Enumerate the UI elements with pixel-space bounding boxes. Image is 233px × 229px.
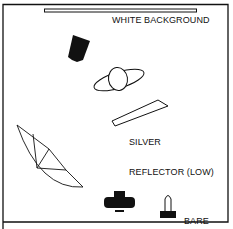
person-topview-icon <box>92 65 146 96</box>
bare-flash-label: BARE FLASH <box>184 196 214 229</box>
white-background-bar <box>45 9 197 12</box>
lighting-diagram: WHITE BACKGROUND SILVER REFLECTOR (LOW) … <box>0 0 233 229</box>
softbox-icon <box>68 35 90 62</box>
white-background-label: WHITE BACKGROUND <box>112 15 210 25</box>
reflector-label-line1: SILVER <box>129 137 214 147</box>
reflector-label-line2: REFLECTOR (LOW) <box>129 167 214 177</box>
silver-reflector-label: SILVER REFLECTOR (LOW) <box>129 117 214 197</box>
umbrella-icon <box>17 125 83 187</box>
bare-flash-icon <box>160 196 176 219</box>
flash-label-line1: BARE <box>184 216 214 226</box>
